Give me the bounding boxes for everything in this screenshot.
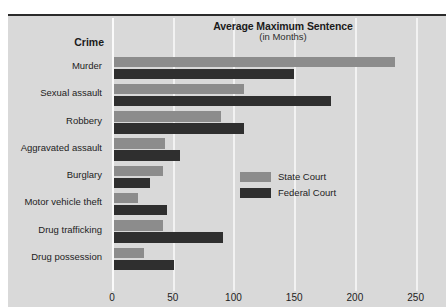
category-label: Aggravated assault (6, 142, 102, 153)
category-label: Burglary (6, 169, 102, 180)
category-label: Drug trafficking (6, 224, 102, 235)
x-tick-label-150: 150 (286, 292, 303, 303)
category-label: Sexual assault (6, 87, 102, 98)
chart-row: Sexual assault (8, 82, 446, 109)
category-label: Robbery (6, 115, 102, 126)
legend-swatch-federal-court (240, 188, 271, 198)
category-label: Motor vehicle theft (6, 196, 102, 207)
chart-row: Burglary (8, 164, 446, 191)
bar-state-court (114, 166, 163, 177)
chart-row: Aggravated assault (8, 137, 446, 164)
bar-federal-court (114, 69, 294, 80)
legend-swatch-state-court (240, 172, 271, 182)
chart-row: Motor vehicle theft (8, 191, 446, 218)
category-label: Drug possession (6, 251, 102, 262)
x-tick-label-200: 200 (347, 292, 364, 303)
chart-figure: Average Maximum Sentence (in Months) Cri… (8, 14, 446, 307)
bar-federal-court (114, 123, 244, 134)
bar-federal-court (114, 96, 331, 107)
bar-federal-court (114, 178, 150, 189)
bar-state-court (114, 84, 244, 95)
bar-state-court (114, 193, 138, 204)
legend-label-federal-court: Federal Court (278, 187, 336, 198)
bar-state-court (114, 220, 163, 231)
bar-state-court (114, 248, 144, 259)
chart-legend: State Court Federal Court (240, 170, 336, 202)
bar-state-court (114, 111, 221, 122)
category-column-header: Crime (8, 36, 104, 48)
bar-federal-court (114, 205, 167, 216)
chart-row: Drug trafficking (8, 219, 446, 246)
bar-federal-court (114, 232, 223, 243)
chart-row: Drug possession (8, 246, 446, 273)
chart-row: Murder (8, 55, 446, 82)
x-axis-ticks: 050100150200250 (112, 292, 446, 307)
bar-state-court (114, 57, 395, 68)
x-tick-label-100: 100 (225, 292, 242, 303)
bar-rows: MurderSexual assaultRobberyAggravated as… (8, 55, 446, 274)
legend-item-federal-court: Federal Court (240, 186, 336, 199)
bar-state-court (114, 138, 165, 149)
x-tick-label-250: 250 (407, 292, 424, 303)
legend-label-state-court: State Court (278, 171, 326, 182)
legend-item-state-court: State Court (240, 170, 336, 183)
x-tick-label-0: 0 (109, 292, 115, 303)
chart-subtitle: (in Months) (158, 32, 408, 43)
chart-title-block: Average Maximum Sentence (in Months) (158, 20, 408, 43)
bar-federal-court (114, 260, 174, 271)
category-label: Murder (6, 60, 102, 71)
chart-row: Robbery (8, 110, 446, 137)
bar-federal-court (114, 150, 180, 161)
x-tick-label-50: 50 (167, 292, 178, 303)
